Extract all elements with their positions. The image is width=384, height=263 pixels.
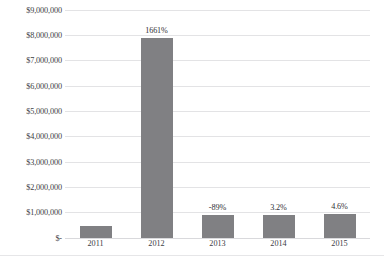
footer-divider	[0, 255, 384, 256]
gridline	[65, 136, 370, 137]
y-axis-tick-label: $1,000,000	[0, 208, 62, 217]
plot-area: 1661%-89%3.2%4.6%	[65, 10, 370, 238]
gridline	[65, 86, 370, 87]
x-axis-tick-label-2014: 2014	[249, 239, 309, 248]
bar-2012[interactable]	[141, 38, 173, 237]
x-axis-labels: 20112012201320142015	[65, 239, 370, 253]
bar-2015[interactable]	[324, 214, 356, 238]
bar-chart: $9,000,000$8,000,000$7,000,000$6,000,000…	[0, 0, 384, 263]
gridline	[65, 35, 370, 36]
gridline	[65, 10, 370, 11]
bar-2013[interactable]	[202, 215, 234, 237]
x-axis-tick-label-2013: 2013	[188, 239, 248, 248]
y-axis-tick-label: $4,000,000	[0, 132, 62, 141]
gridline	[65, 111, 370, 112]
x-axis-tick-label-2012: 2012	[127, 239, 187, 248]
bar-2011[interactable]	[80, 226, 112, 237]
gridline	[65, 60, 370, 61]
y-axis-labels: $9,000,000$8,000,000$7,000,000$6,000,000…	[0, 0, 62, 263]
gridline	[65, 162, 370, 163]
bar-2014[interactable]	[263, 215, 295, 238]
gridline	[65, 187, 370, 188]
y-axis-tick-label: $5,000,000	[0, 106, 62, 115]
y-axis-tick-label: $7,000,000	[0, 56, 62, 65]
y-axis-tick-label: $3,000,000	[0, 157, 62, 166]
y-axis-tick-label: $2,000,000	[0, 182, 62, 191]
y-axis-tick-label: $9,000,000	[0, 5, 62, 14]
bar-data-label-2015: 4.6%	[300, 202, 380, 211]
y-axis-tick-label: $-	[0, 233, 62, 242]
y-axis-tick-label: $8,000,000	[0, 30, 62, 39]
y-axis-tick-label: $6,000,000	[0, 81, 62, 90]
x-axis-tick-label-2015: 2015	[310, 239, 370, 248]
x-axis-tick-label-2011: 2011	[66, 239, 126, 248]
bar-data-label-2012: 1661%	[117, 26, 197, 35]
